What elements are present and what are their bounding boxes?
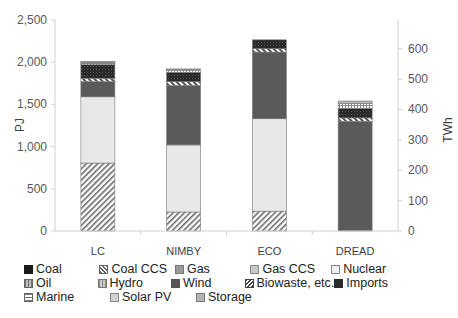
y2-tick-label: 100 bbox=[408, 194, 428, 208]
y-tick-label: 500 bbox=[27, 182, 47, 196]
legend-label: Coal CCS bbox=[111, 262, 167, 276]
x-tick-label: DREAD bbox=[336, 245, 375, 257]
legend-swatch-icon bbox=[334, 279, 343, 288]
legend-item-wind: Wind bbox=[171, 276, 245, 290]
legend-item-gas-ccs: Gas CCS bbox=[250, 262, 331, 276]
legend: CoalCoal CCSGasGas CCSNuclearOilHydroWin… bbox=[24, 262, 454, 304]
bar-segment-biowaste-etc- bbox=[252, 49, 286, 52]
legend-row: CoalCoal CCSGasGas CCSNuclear bbox=[24, 262, 454, 276]
y2-tick-label: 300 bbox=[408, 133, 428, 147]
legend-swatch-icon bbox=[24, 279, 33, 288]
legend-swatch-icon bbox=[245, 279, 254, 288]
bar-segment-wind bbox=[252, 52, 286, 119]
bar-dread bbox=[338, 101, 372, 231]
bar-segment-wind bbox=[338, 121, 372, 231]
legend-swatch-icon bbox=[110, 293, 119, 302]
bar-segment-nuclear bbox=[81, 97, 115, 163]
y-tick-label: 1,000 bbox=[17, 140, 47, 154]
legend-label: Storage bbox=[208, 290, 252, 304]
legend-swatch-icon bbox=[250, 265, 259, 274]
legend-label: Solar PV bbox=[122, 290, 171, 304]
bar-segment-nuclear bbox=[167, 145, 201, 212]
y-tick-label: 2,500 bbox=[17, 13, 47, 27]
bar-segment-imports bbox=[338, 109, 372, 118]
legend-item-coal: Coal bbox=[24, 262, 99, 276]
legend-item-coal-ccs: Coal CCS bbox=[99, 262, 174, 276]
legend-item-hydro: Hydro bbox=[98, 276, 172, 290]
bar-segment-storage bbox=[167, 69, 201, 70]
y2-tick-label: 500 bbox=[408, 72, 428, 86]
bar-segment-nuclear bbox=[252, 119, 286, 211]
legend-label: Biowaste, etc. bbox=[257, 276, 335, 290]
y2-axis-title: TWh bbox=[441, 117, 455, 142]
legend-label: Marine bbox=[36, 290, 74, 304]
bar-segment-imports bbox=[252, 40, 286, 49]
bar-segment-wind bbox=[81, 82, 115, 97]
y-axis-title: PJ bbox=[13, 118, 27, 132]
bar-segment-coal-ccs bbox=[167, 212, 201, 231]
legend-item-biowaste-etc: Biowaste, etc. bbox=[245, 276, 335, 290]
legend-item-storage: Storage bbox=[196, 290, 282, 304]
legend-item-nuclear: Nuclear bbox=[331, 262, 454, 276]
bar-eco bbox=[252, 40, 286, 231]
bar-segment-imports bbox=[81, 65, 115, 79]
plot-area bbox=[81, 40, 372, 231]
legend-item-marine: Marine bbox=[24, 290, 110, 304]
legend-label: Nuclear bbox=[343, 262, 386, 276]
legend-label: Coal bbox=[36, 262, 62, 276]
legend-swatch-icon bbox=[171, 279, 180, 288]
legend-swatch-icon bbox=[98, 279, 107, 288]
x-tick-label: NIMBY bbox=[166, 245, 202, 257]
legend-swatch-icon bbox=[24, 265, 33, 274]
axes: 05001,0001,5002,0002,5000100200300400500… bbox=[13, 13, 455, 257]
legend-item-imports: Imports bbox=[334, 276, 454, 290]
legend-swatch-icon bbox=[175, 265, 184, 274]
legend-label: Hydro bbox=[110, 276, 143, 290]
y-tick-label: 1,500 bbox=[17, 97, 47, 111]
legend-row: OilHydroWindBiowaste, etc.Imports bbox=[24, 276, 454, 290]
bar-nimby bbox=[167, 69, 201, 231]
bar-segment-marine bbox=[338, 104, 372, 109]
legend-label: Imports bbox=[346, 276, 388, 290]
y-tick-label: 0 bbox=[40, 224, 47, 238]
x-tick-label: ECO bbox=[257, 245, 281, 257]
bar-segment-biowaste-etc- bbox=[167, 82, 201, 86]
bar-segment-storage bbox=[81, 61, 115, 62]
y2-tick-label: 600 bbox=[408, 42, 428, 56]
legend-row: MarineSolar PVStorage bbox=[24, 290, 454, 304]
legend-swatch-icon bbox=[196, 293, 205, 302]
legend-item-gas: Gas bbox=[175, 262, 250, 276]
legend-label: Wind bbox=[183, 276, 211, 290]
bar-segment-storage bbox=[338, 101, 372, 104]
x-tick-label: LC bbox=[91, 245, 105, 257]
y2-tick-label: 400 bbox=[408, 102, 428, 116]
legend-label: Oil bbox=[36, 276, 51, 290]
legend-swatch-icon bbox=[99, 265, 108, 274]
bar-segment-coal-ccs bbox=[81, 163, 115, 231]
bar-segment-imports bbox=[167, 72, 201, 81]
bar-segment-wind bbox=[167, 85, 201, 145]
y-tick-label: 2,000 bbox=[17, 55, 47, 69]
y2-tick-label: 0 bbox=[408, 224, 415, 238]
bar-segment-biowaste-etc- bbox=[81, 78, 115, 81]
legend-swatch-icon bbox=[331, 265, 340, 274]
bar-lc bbox=[81, 61, 115, 231]
legend-label: Gas bbox=[187, 262, 210, 276]
legend-item-oil: Oil bbox=[24, 276, 98, 290]
bar-segment-biowaste-etc- bbox=[338, 118, 372, 121]
bar-segment-coal-ccs bbox=[252, 211, 286, 231]
legend-item-solar-pv: Solar PV bbox=[110, 290, 196, 304]
y2-tick-label: 200 bbox=[408, 163, 428, 177]
legend-swatch-icon bbox=[24, 293, 33, 302]
legend-label: Gas CCS bbox=[262, 262, 315, 276]
